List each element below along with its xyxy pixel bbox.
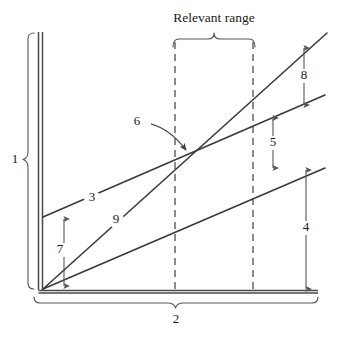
measure-7-label: 7 [57, 241, 64, 256]
series-line-3-label: 3 [89, 189, 96, 204]
y-axis-bracket [23, 33, 34, 289]
cost-behavior-diagram: Relevant range 9 3 6 [0, 0, 337, 340]
y-axis-bracket-label: 1 [12, 151, 19, 166]
y-axis-bracket-group: 1 [12, 33, 34, 289]
series-line-9-stroke [43, 33, 327, 289]
measure-8-gap: 8 [297, 48, 311, 105]
x-axis-bracket-group: 2 [34, 297, 318, 326]
measure-5-label: 5 [270, 134, 277, 149]
diagram-canvas: Relevant range 9 3 6 [0, 0, 337, 340]
measure-4-height: 4 [299, 170, 313, 289]
measure-4-label: 4 [303, 219, 310, 234]
relevant-range-boundaries [175, 42, 253, 290]
measure-8-label: 8 [301, 67, 308, 82]
x-axis-bracket [34, 297, 318, 308]
series-line-3: 3 [43, 95, 325, 217]
intersection-callout-6: 6 [134, 113, 186, 150]
intersection-callout-label: 6 [134, 113, 141, 128]
relevant-range-brace [173, 33, 255, 47]
x-axis-bracket-label: 2 [173, 311, 180, 326]
axes [39, 32, 319, 293]
series-line-9-label: 9 [113, 211, 120, 226]
measure-5-gap: 5 [266, 118, 280, 168]
series-line-4-stroke [43, 168, 325, 289]
intersection-callout-leader [151, 124, 186, 150]
measure-7-intercept: 7 [57, 219, 71, 286]
relevant-range-title: Relevant range [173, 10, 254, 25]
series-line-9: 9 [43, 33, 327, 289]
